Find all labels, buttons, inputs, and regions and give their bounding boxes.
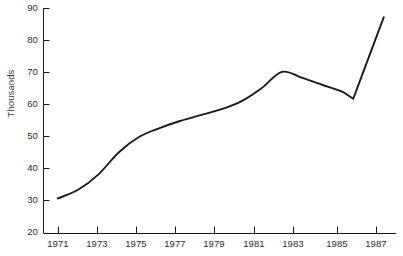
x-tick-label: 1973	[77, 239, 117, 249]
y-tick-label: 60	[12, 99, 38, 109]
y-tick-label: 80	[12, 35, 38, 45]
axis-spines	[44, 8, 397, 234]
x-tick-label: 1975	[116, 239, 156, 249]
y-tick-label: 90	[12, 3, 38, 13]
y-tick-label: 40	[12, 163, 38, 173]
x-axis-tick-marks	[59, 227, 377, 234]
x-tick-label: 1987	[356, 239, 396, 249]
series-line-path	[58, 17, 384, 198]
y-tick-label: 70	[12, 67, 38, 77]
data-series-line	[58, 17, 384, 198]
y-tick-label: 50	[12, 131, 38, 141]
x-tick-mark-path	[59, 227, 377, 234]
x-tick-label: 1985	[317, 239, 357, 249]
x-tick-label: 1977	[155, 239, 195, 249]
line-chart-figure: Thousands 90 80 70 60 50 40 30 20 1971 1…	[0, 0, 403, 256]
x-tick-label: 1979	[194, 239, 234, 249]
y-axis-tick-marks	[44, 9, 50, 201]
x-tick-label: 1983	[273, 239, 313, 249]
x-tick-label: 1981	[234, 239, 274, 249]
y-tick-label: 30	[12, 195, 38, 205]
y-tick-label: 20	[12, 227, 38, 237]
chart-plot-svg	[0, 0, 403, 256]
y-tick-mark-path	[44, 9, 50, 201]
y-axis-title: Thousands	[5, 54, 16, 134]
x-tick-label: 1971	[38, 239, 78, 249]
axis-spine-path	[44, 8, 397, 234]
